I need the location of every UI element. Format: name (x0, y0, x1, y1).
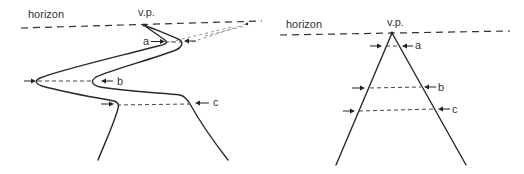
right-measure-c (359, 109, 435, 111)
right-panel-straight-road: horizon v.p. a b c (280, 16, 510, 165)
right-label-a: a (415, 39, 422, 51)
right-label-c: c (452, 103, 458, 115)
left-arrow-b-left (24, 79, 36, 84)
left-distant-point (246, 23, 248, 25)
left-label-c: c (213, 96, 219, 108)
right-road-right-edge (392, 33, 466, 165)
left-label-b: b (117, 75, 123, 87)
left-arrow-a-out (184, 39, 196, 44)
right-arrow-c-right (438, 107, 450, 112)
right-arrow-b-right (424, 85, 436, 90)
left-measure-c (117, 104, 190, 105)
left-horizon-label: horizon (28, 8, 64, 20)
left-arrow-b-right (101, 79, 113, 84)
left-label-a: a (143, 35, 150, 47)
perspective-diagram: horizon v.p. a b (0, 0, 524, 174)
left-faint-guide-3 (205, 26, 245, 36)
left-vp-label: v.p. (138, 6, 155, 18)
left-arrow-c-left (101, 102, 114, 107)
left-panel-winding-road: horizon v.p. a b (21, 6, 262, 160)
right-arrow-b-left (352, 86, 365, 91)
right-horizon-label: horizon (286, 18, 322, 30)
right-label-b: b (438, 81, 444, 93)
right-vp-label: v.p. (387, 16, 404, 28)
left-faint-guide-1 (192, 24, 246, 42)
left-horizon-line (21, 21, 262, 28)
left-arrow-c-right (195, 101, 209, 106)
right-arrow-a-left (370, 44, 382, 49)
right-measure-b (370, 87, 421, 88)
right-road-left-edge (336, 33, 392, 165)
right-horizon-line (280, 31, 510, 35)
right-arrow-a-right (402, 44, 413, 49)
right-arrow-c-left (343, 109, 355, 114)
left-arrow-a-in (151, 39, 165, 44)
